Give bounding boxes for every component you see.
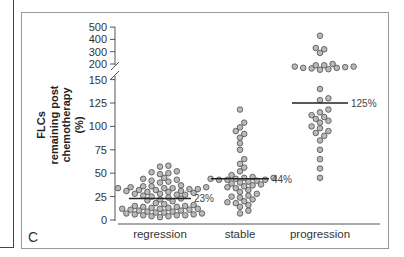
svg-text:progression: progression [290, 228, 350, 240]
x-axis: regressionstableprogression [118, 224, 380, 240]
svg-text:125: 125 [89, 97, 107, 109]
panel-label: C [28, 229, 38, 245]
svg-text:(%): (%) [73, 116, 85, 133]
dot-plot: 0255075100125150200300400500 FLCsremaini… [0, 0, 404, 257]
svg-text:chemotherapy: chemotherapy [60, 87, 72, 163]
svg-text:FLCs: FLCs [35, 111, 47, 139]
svg-text:remaining post: remaining post [48, 85, 60, 164]
svg-text:500: 500 [89, 21, 107, 33]
svg-text:0: 0 [101, 214, 107, 226]
svg-text:400: 400 [89, 33, 107, 45]
svg-text:regression: regression [133, 228, 187, 240]
y-axis-label: FLCsremaining postchemotherapy(%) [35, 85, 85, 164]
svg-text:44%: 44% [272, 174, 292, 185]
svg-text:100: 100 [89, 120, 107, 132]
svg-text:150: 150 [89, 74, 107, 86]
svg-text:50: 50 [95, 167, 107, 179]
svg-text:stable: stable [225, 228, 256, 240]
svg-text:125%: 125% [351, 98, 377, 109]
svg-text:75: 75 [95, 144, 107, 156]
svg-text:200: 200 [89, 58, 107, 70]
y-axis: 0255075100125150200300400500 [89, 21, 119, 226]
svg-text:25: 25 [95, 191, 107, 203]
svg-text:300: 300 [89, 46, 107, 58]
svg-text:23%: 23% [194, 193, 214, 204]
data-points [115, 33, 356, 220]
